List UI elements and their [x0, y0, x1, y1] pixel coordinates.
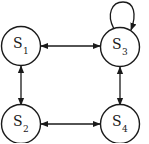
state-s1-subscript: 1	[23, 46, 29, 56]
state-s1-letter: S	[13, 35, 23, 51]
state-s2: S 2	[2, 105, 41, 144]
state-s1: S 1	[2, 27, 41, 66]
state-diagram: S 1 S 2 S 3 S 4	[0, 0, 149, 143]
state-s3-subscript: 3	[122, 47, 128, 57]
state-s3-letter: S	[112, 36, 122, 52]
state-s4: S 4	[101, 105, 140, 144]
state-s4-letter: S	[112, 113, 122, 129]
state-s4-subscript: 4	[122, 124, 128, 134]
state-s2-subscript: 2	[23, 124, 29, 134]
state-s3: S 3	[101, 28, 140, 67]
edge-s3-self-loop	[110, 2, 134, 30]
state-s2-letter: S	[13, 113, 23, 129]
